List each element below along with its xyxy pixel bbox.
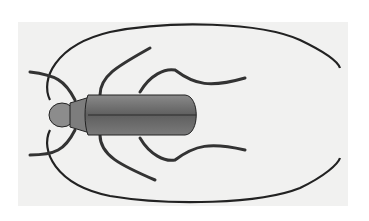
antenna-top <box>47 24 340 100</box>
beetle-illustration <box>0 0 369 221</box>
antenna-bottom <box>47 130 340 202</box>
